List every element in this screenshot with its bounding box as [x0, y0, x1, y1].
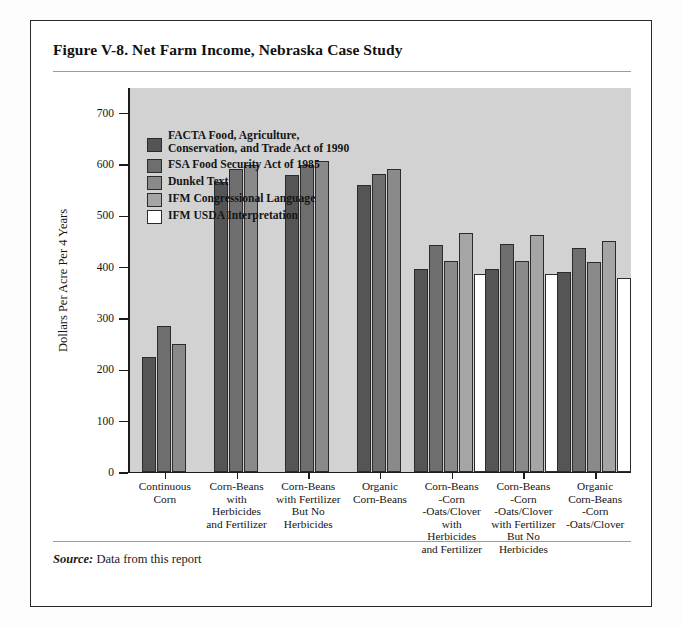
- bar: [300, 165, 314, 472]
- x-axis-labels: ContinuousCornCorn-BeanswithHerbicidesan…: [129, 480, 631, 578]
- source-divider: [53, 541, 631, 542]
- bar: [444, 261, 458, 472]
- legend-swatch: [147, 210, 162, 224]
- source-label: Source:: [53, 552, 93, 566]
- legend-label-line: IFM Congressional Language: [168, 192, 315, 205]
- y-tick-label: 600: [80, 158, 114, 170]
- bar: [429, 245, 443, 472]
- bar: [572, 248, 586, 472]
- x-axis-label-line: Corn-Beans: [553, 493, 637, 506]
- legend-label-line: FACTA Food, Agriculture,: [168, 129, 349, 142]
- x-tick: [523, 473, 524, 479]
- title-divider: [53, 71, 631, 72]
- legend-label: Dunkel Text: [168, 175, 228, 188]
- bar: [530, 235, 544, 472]
- bar: [459, 233, 473, 472]
- y-tick: [119, 216, 128, 217]
- bar: [485, 269, 499, 472]
- y-tick-label: 400: [80, 261, 114, 273]
- bar: [414, 269, 428, 472]
- bar: [315, 161, 329, 472]
- bar: [172, 344, 186, 472]
- x-tick: [237, 473, 238, 479]
- y-tick: [119, 318, 128, 319]
- bar: [387, 169, 401, 472]
- x-tick: [165, 473, 166, 479]
- y-tick-label: 200: [80, 363, 114, 375]
- y-tick: [119, 267, 128, 268]
- legend-label: FSA Food Security Act of 1985: [168, 158, 320, 171]
- bar: [515, 261, 529, 472]
- legend-label-line: FSA Food Security Act of 1985: [168, 158, 320, 171]
- y-tick-label: 100: [80, 415, 114, 427]
- bar: [157, 326, 171, 472]
- chart-plot-area: Dollars Per Acre Per 4 Years 01002003004…: [98, 88, 631, 532]
- y-axis-title-holder: Dollars Per Acre Per 4 Years: [56, 0, 74, 88]
- x-axis-label-line: -Corn: [553, 505, 637, 518]
- y-tick-label: 500: [80, 209, 114, 221]
- legend-label-line: Conservation, and Trade Act of 1990: [168, 142, 349, 155]
- source-note: Source: Data from this report: [53, 552, 202, 567]
- y-tick: [119, 164, 128, 165]
- x-axis-label-line: -Oats/Clover: [553, 518, 637, 531]
- legend-label-line: IFM USDA Interpretation: [168, 209, 298, 222]
- legend-swatch: [147, 138, 162, 152]
- legend-swatch: [147, 159, 162, 173]
- x-tick: [452, 473, 453, 479]
- y-tick: [119, 472, 128, 473]
- y-tick-label: 300: [80, 312, 114, 324]
- bar: [617, 278, 631, 472]
- x-axis-label: OrganicCorn-Beans-Corn-Oats/Clover: [553, 480, 637, 530]
- bar: [372, 174, 386, 472]
- x-axis-label-line: Herbicides: [266, 518, 350, 531]
- y-tick: [119, 370, 128, 371]
- legend-label: IFM USDA Interpretation: [168, 209, 298, 222]
- x-tick: [595, 473, 596, 479]
- bar: [214, 182, 228, 472]
- figure-frame: Figure V-8. Net Farm Income, Nebraska Ca…: [30, 20, 652, 607]
- x-axis-label-line: But No: [266, 505, 350, 518]
- y-tick-label: 0: [80, 466, 114, 478]
- y-axis-title: Dollars Per Acre Per 4 Years: [56, 88, 71, 473]
- y-tick-label: 700: [80, 107, 114, 119]
- legend-swatch: [147, 193, 162, 207]
- page: Figure V-8. Net Farm Income, Nebraska Ca…: [0, 0, 682, 627]
- source-text: Data from this report: [93, 552, 201, 566]
- x-tick: [380, 473, 381, 479]
- bar: [557, 272, 571, 472]
- figure-title: Figure V-8. Net Farm Income, Nebraska Ca…: [53, 41, 403, 59]
- bar: [500, 244, 514, 472]
- x-tick: [308, 473, 309, 479]
- bar: [142, 357, 156, 473]
- legend-swatch: [147, 176, 162, 190]
- legend-label-line: Dunkel Text: [168, 175, 228, 188]
- bar: [587, 262, 601, 472]
- legend-label: FACTA Food, Agriculture,Conservation, an…: [168, 129, 349, 155]
- y-tick: [119, 421, 128, 422]
- x-axis-label-line: Herbicides: [482, 543, 566, 556]
- x-axis-label-line: Organic: [553, 480, 637, 493]
- bar: [357, 185, 371, 472]
- y-tick: [119, 113, 128, 114]
- bar: [602, 241, 616, 472]
- legend-label: IFM Congressional Language: [168, 192, 315, 205]
